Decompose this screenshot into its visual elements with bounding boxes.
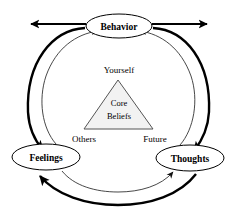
node-behavior-label: Behavior [101,22,139,32]
connector-feelings-to-thoughts-inner [62,171,173,192]
triangle-label-yourself: Yourself [104,65,135,75]
cbt-cycle-diagram: Behavior Feelings Thoughts Yourself Othe… [0,0,236,209]
cbt-diagram-canvas: Behavior Feelings Thoughts Yourself Othe… [0,0,236,209]
connector-behavior-to-thoughts-outer [153,28,209,151]
connector-behavior-to-feelings-outer [28,28,85,150]
triangle-label-future: Future [143,134,167,144]
core-beliefs-label-line2: Beliefs [107,111,131,121]
connector-thoughts-to-feelings-outer [40,174,196,205]
node-thoughts-label: Thoughts [171,154,210,164]
node-feelings-label: Feelings [29,153,63,163]
core-beliefs-label-line1: Core [111,98,128,108]
triangle-label-others: Others [72,134,96,144]
